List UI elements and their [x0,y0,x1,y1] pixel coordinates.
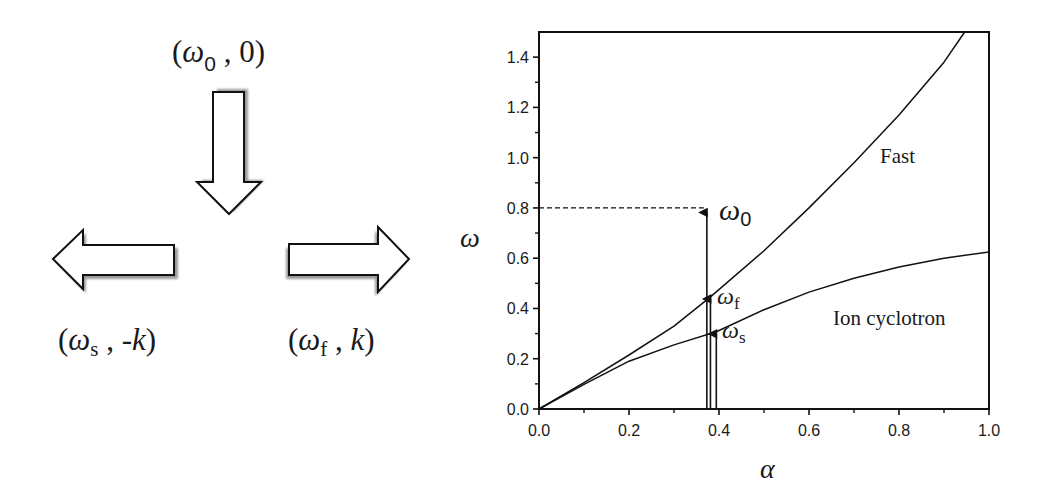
x-tick-label: 0.6 [798,422,820,439]
fast-curve-label: Fast [880,144,915,168]
right-arrow-icon [286,227,409,296]
fast-curve [539,32,965,409]
omega-f-label: ωf [717,283,740,313]
incident-wave-label: (ω0 , 0) [172,34,265,75]
y-tick-label: 1.2 [507,99,529,116]
x-tick-label: 0.8 [888,422,910,439]
y-axis-ticks: 0.00.20.40.60.81.01.21.4 [507,49,539,418]
y-axis-label: ω [460,222,480,253]
omega-0-label: ω0 [719,193,751,230]
figure: (ω0 , 0) (ωs , -k) (ωf , k) 0.00.20.40.6… [0,0,1050,504]
x-tick-label: 0.0 [528,422,550,439]
ion-cyclotron-curve-label: Ion cyclotron [833,306,946,330]
wave-decomposition-diagram: (ω0 , 0) (ωs , -k) (ωf , k) [53,34,409,361]
y-tick-label: 0.4 [507,300,529,317]
y-tick-label: 0.6 [507,250,529,267]
fast-wave-label: (ωf , k) [288,322,375,361]
x-axis-label: α [760,453,776,484]
series-lines [539,32,989,409]
y-tick-label: 0.2 [507,351,529,368]
dispersion-chart: 0.00.20.40.60.81.01.21.4 0.00.20.40.60.8… [460,32,1000,484]
slow-wave-label: (ωs , -k) [58,322,156,361]
x-axis-ticks: 0.00.20.40.60.81.0 [528,409,1000,439]
left-arrow-icon [53,230,178,293]
omega-s-label: ωs [722,317,746,347]
y-tick-label: 1.4 [507,49,529,66]
x-tick-label: 1.0 [978,422,1000,439]
down-arrow-icon [197,89,264,214]
annotations [539,208,716,409]
x-tick-label: 0.2 [618,422,640,439]
ion-cyclotron-curve [539,252,989,409]
x-tick-label: 0.4 [708,422,730,439]
y-tick-label: 0.0 [507,401,529,418]
y-tick-label: 1.0 [507,150,529,167]
y-tick-label: 0.8 [507,200,529,217]
